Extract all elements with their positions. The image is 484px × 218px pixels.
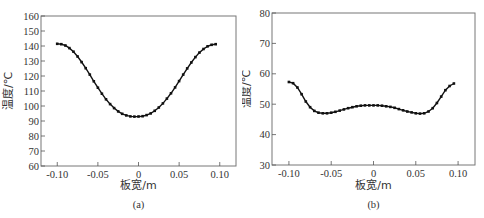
x-tick-label: 0.05 <box>170 169 188 180</box>
data-point-marker <box>351 106 354 109</box>
data-point-marker <box>166 97 169 100</box>
y-tick-label: 50 <box>260 99 271 110</box>
x-tick-label: -0.05 <box>87 169 109 180</box>
data-point-marker <box>444 89 447 92</box>
data-point-marker <box>162 102 165 105</box>
x-tick-label: -0.10 <box>278 168 300 179</box>
data-point-marker <box>372 104 375 107</box>
data-point-marker <box>141 115 144 118</box>
x-axis-title: 板宽/m <box>120 178 156 192</box>
data-point-marker <box>129 115 132 118</box>
data-point-marker <box>145 114 148 117</box>
y-tick-label: 120 <box>23 71 39 82</box>
data-point-marker <box>214 43 217 46</box>
data-point-marker <box>381 104 384 107</box>
data-point-marker <box>190 61 193 64</box>
x-tick-label: -0.05 <box>320 168 342 179</box>
y-tick-label: 60 <box>260 68 271 79</box>
data-point-marker <box>206 45 209 48</box>
x-tick-label: 0.10 <box>449 168 467 179</box>
data-point-marker <box>72 50 75 53</box>
data-point-marker <box>436 102 439 105</box>
data-point-marker <box>113 107 116 110</box>
data-point-marker <box>317 111 320 114</box>
y-tick-label: 100 <box>23 101 39 112</box>
data-point-marker <box>288 81 291 84</box>
data-point-marker <box>133 115 136 118</box>
y-tick-label: 150 <box>23 26 39 37</box>
y-tick-label: 80 <box>29 131 40 142</box>
data-point-marker <box>423 112 426 115</box>
data-point-marker <box>448 85 451 88</box>
data-point-marker <box>198 51 201 54</box>
data-point-marker <box>158 106 161 109</box>
data-point-marker <box>210 44 213 47</box>
data-point-marker <box>406 110 409 113</box>
data-point-marker <box>326 112 329 115</box>
chart-panel-a: 60708090100110120130140150160-0.10-0.050… <box>0 0 242 218</box>
x-tick-label: 0.10 <box>211 169 229 180</box>
plot-area-frame <box>41 16 236 166</box>
y-axis-title: 温度/℃ <box>1 72 15 110</box>
data-point-marker <box>89 73 92 76</box>
data-point-marker <box>80 61 83 64</box>
data-point-marker <box>415 112 418 115</box>
data-point-marker <box>313 110 316 113</box>
chart-panel-b: 304050607080-0.10-0.0500.050.10板宽/m温度/℃(… <box>242 0 484 218</box>
data-point-marker <box>305 100 308 103</box>
data-point-marker <box>376 104 379 107</box>
data-point-marker <box>419 112 422 115</box>
data-point-marker <box>137 115 140 118</box>
figure-caption: (a) <box>133 199 145 211</box>
data-point-marker <box>389 106 392 109</box>
x-tick-label: 0 <box>371 168 376 179</box>
data-point-marker <box>117 110 120 113</box>
y-tick-label: 90 <box>29 116 40 127</box>
data-point-marker <box>453 82 456 85</box>
data-point-marker <box>109 103 112 106</box>
data-point-marker <box>182 73 185 76</box>
data-point-marker <box>330 111 333 114</box>
chart-b-svg: 304050607080-0.10-0.0500.050.10板宽/m温度/℃(… <box>242 0 484 218</box>
data-point-marker <box>194 56 197 59</box>
data-point-marker <box>93 80 96 83</box>
data-point-marker <box>170 92 173 95</box>
data-point-marker <box>385 105 388 108</box>
data-point-marker <box>121 113 124 116</box>
data-point-marker <box>149 112 152 115</box>
x-tick-label: -0.10 <box>46 169 68 180</box>
y-tick-label: 40 <box>260 129 271 140</box>
y-tick-label: 80 <box>260 8 271 19</box>
data-point-marker <box>440 95 443 98</box>
temperature-curve <box>289 82 454 114</box>
data-point-marker <box>368 104 371 107</box>
data-point-marker <box>334 111 337 114</box>
data-point-marker <box>292 82 295 85</box>
y-axis-title: 温度/℃ <box>242 70 253 108</box>
data-point-marker <box>431 107 434 110</box>
figure-caption: (b) <box>367 199 380 211</box>
x-tick-label: 0.05 <box>407 168 425 179</box>
data-point-marker <box>186 67 189 70</box>
data-point-marker <box>202 48 205 51</box>
data-point-marker <box>355 105 358 108</box>
y-tick-label: 70 <box>260 38 271 49</box>
y-tick-label: 110 <box>24 86 39 97</box>
temperature-curve <box>57 44 216 117</box>
data-point-marker <box>360 104 363 107</box>
chart-a-svg: 60708090100110120130140150160-0.10-0.050… <box>0 0 242 218</box>
data-point-marker <box>398 108 401 111</box>
y-tick-label: 70 <box>29 146 40 157</box>
data-point-marker <box>300 93 303 96</box>
y-tick-label: 60 <box>29 161 40 172</box>
data-point-marker <box>322 112 325 115</box>
data-point-marker <box>76 55 79 58</box>
data-point-marker <box>105 98 108 101</box>
data-point-marker <box>347 107 350 110</box>
data-point-marker <box>84 67 87 70</box>
data-point-marker <box>393 107 396 110</box>
data-point-marker <box>153 110 156 113</box>
data-point-marker <box>68 47 71 50</box>
data-point-marker <box>338 109 341 112</box>
data-point-marker <box>97 86 100 89</box>
